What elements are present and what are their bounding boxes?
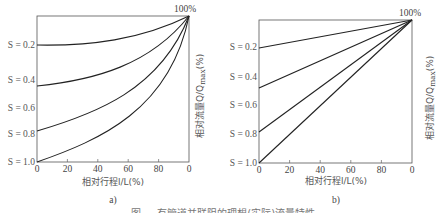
chart-b-x-tick: 40: [315, 165, 325, 175]
chart-a-s-label: S = 0.6: [8, 103, 36, 113]
chart-a-x-tick: 0: [35, 164, 40, 174]
chart-b-x-tick: 0: [257, 165, 262, 175]
chart-a-x-tick-marks: [67, 159, 158, 162]
chart-b-s-label: S = 0.4: [230, 72, 258, 82]
chart-b-x-tick: 20: [285, 165, 295, 175]
chart-a: 100% S = 0.2 S = 0.4 S = 0.6 S = 0.8 S =…: [8, 4, 207, 206]
chart-a-panel-label: a): [109, 195, 116, 206]
chart-b-y-axis-label: 相对流量Q/Qmax(%): [424, 56, 437, 140]
chart-b-lines: [259, 20, 412, 163]
chart-b-x-axis-label: 相对行程l/L(%): [305, 175, 367, 186]
line-s-1.0: [259, 20, 412, 163]
line-s-0.8: [259, 20, 412, 132]
curve-s-0.8: [37, 16, 189, 131]
chart-a-y-axis-label: 相对流量Q/Qmax(%): [194, 54, 207, 138]
chart-a-s-label: S = 0.2: [8, 40, 36, 50]
chart-a-x-axis-label: 相对行程l/L(%): [82, 176, 144, 187]
chart-a-s-label: S = 1.0: [8, 157, 36, 167]
line-s-0.2: [259, 20, 412, 48]
curve-s-1.0: [37, 16, 189, 162]
line-s-0.4: [259, 20, 412, 88]
chart-a-x-tick: 20: [63, 164, 73, 174]
chart-b-top-label: 100%: [399, 8, 421, 18]
figure: 100% S = 0.2 S = 0.4 S = 0.6 S = 0.8 S =…: [0, 0, 446, 213]
chart-b-s-label: S = 1.0: [230, 158, 258, 168]
curve-s-0.2: [37, 16, 189, 45]
chart-a-x-tick: 60: [123, 164, 133, 174]
chart-a-curves: [37, 16, 189, 162]
chart-a-x-tick: 40: [93, 164, 103, 174]
chart-b-x-tick: 0: [410, 165, 415, 175]
chart-b-panel-label: b): [332, 195, 340, 206]
chart-b: 100% S = 0.2 S = 0.4 S = 0.6 S = 0.8 S =…: [230, 8, 437, 206]
chart-a-x-tick: 0: [187, 164, 192, 174]
chart-b-x-tick-marks: [290, 160, 382, 163]
chart-b-x-tick: 60: [346, 165, 356, 175]
chart-a-x-tick: 80: [154, 164, 164, 174]
chart-a-s-label: S = 0.8: [8, 129, 36, 139]
figure-caption: 图 — 有管道并联阻的理想(实际)流量特性: [131, 207, 315, 213]
chart-b-x-tick: 80: [377, 165, 387, 175]
chart-b-s-label: S = 0.8: [230, 129, 258, 139]
chart-a-top-label: 100%: [174, 4, 196, 14]
chart-b-s-label: S = 0.6: [230, 100, 258, 110]
chart-a-frame: [37, 16, 189, 162]
chart-a-s-label: S = 0.4: [8, 75, 36, 85]
chart-b-s-label: S = 0.2: [230, 42, 258, 52]
